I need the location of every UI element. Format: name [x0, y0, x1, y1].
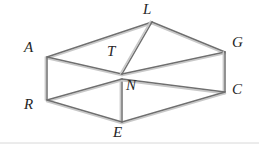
geometry-figure: ALGTRNCE	[0, 0, 259, 150]
edge-TG	[122, 52, 225, 74]
edge-NC	[122, 79, 225, 92]
edge-AL-highlight	[48, 24, 153, 59]
edge-LG-highlight	[151, 23, 224, 53]
vertex-label-n: N	[126, 78, 136, 93]
vertex-label-e: E	[113, 125, 122, 140]
rectangular-prism-wireframe	[0, 0, 259, 150]
edge-NC-highlight	[122, 81, 225, 94]
edge-AL	[47, 22, 152, 57]
edge-RN-highlight	[47, 81, 122, 102]
edge-AT-highlight	[47, 59, 122, 76]
edge-layer	[45, 21, 225, 123]
edge-AT	[47, 57, 122, 74]
vertex-label-r: R	[24, 97, 33, 112]
vertex-label-c: C	[232, 82, 242, 97]
edge-EC	[122, 92, 225, 122]
vertex-label-a: A	[24, 40, 33, 55]
edge-TG-highlight	[122, 54, 225, 76]
vertex-label-l: L	[143, 2, 151, 17]
vertex-label-t: T	[107, 44, 115, 59]
edge-RE-highlight	[47, 102, 122, 124]
edge-LG	[152, 22, 225, 52]
vertex-label-g: G	[232, 35, 243, 50]
edge-RN	[47, 79, 122, 100]
edge-EC-highlight	[122, 94, 225, 124]
edge-RE	[47, 100, 122, 122]
